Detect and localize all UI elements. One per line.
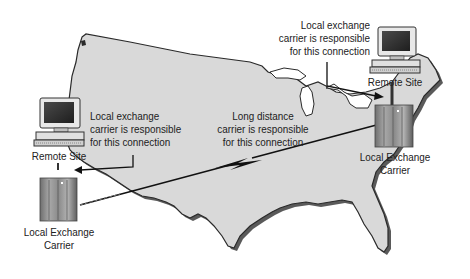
west-lec-text-line1: Local Exchange [20, 226, 97, 239]
long-distance-annotation-line3: for this connection [209, 136, 317, 149]
west-lec-label: Local Exchange Carrier [20, 226, 97, 252]
west-arrowhead [74, 166, 82, 174]
west-remote-site-text: Remote Site [29, 150, 89, 163]
east-remote-site-text: Remote Site [365, 76, 425, 89]
west-annotation-line3: for this connection [90, 136, 181, 149]
east-remote-site-label: Remote Site [365, 76, 425, 89]
long-distance-annotation-line2: carrier is responsible [209, 123, 317, 136]
east-server-tower-icon [375, 105, 413, 147]
west-computer-icon [34, 98, 84, 146]
east-annotation-line1: Local exchange [270, 19, 370, 32]
west-server-tower-icon [40, 178, 77, 221]
west-annotation-line2: carrier is responsible [90, 123, 181, 136]
west-local-carrier-annotation: Local exchange carrier is responsible fo… [90, 110, 181, 149]
east-lec-text-line1: Local Exchange [356, 151, 433, 164]
east-lec-label: Local Exchange Carrier [356, 151, 433, 177]
west-annotation-line1: Local exchange [90, 110, 181, 123]
east-lec-text-line2: Carrier [356, 164, 433, 177]
long-distance-carrier-annotation: Long distance carrier is responsible for… [209, 110, 317, 149]
west-lec-text-line2: Carrier [20, 239, 97, 252]
east-local-carrier-annotation: Local exchange carrier is responsible fo… [270, 19, 370, 58]
long-distance-annotation-line1: Long distance [209, 110, 317, 123]
east-annotation-line2: carrier is responsible [270, 32, 370, 45]
east-annotation-line3: for this connection [270, 45, 370, 58]
network-diagram: Local exchange carrier is responsible fo… [0, 0, 470, 279]
long-distance-line-west-dashed [80, 194, 120, 205]
east-computer-icon [370, 27, 420, 73]
west-remote-site-label: Remote Site [29, 150, 89, 163]
